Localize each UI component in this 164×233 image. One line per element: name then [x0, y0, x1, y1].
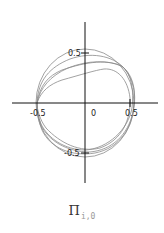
x-tick-label-0: 0 [91, 109, 96, 118]
y-tick-label-neg0.5: -0.5 [64, 149, 80, 158]
curve-3 [37, 62, 134, 152]
axes [12, 22, 158, 183]
caption-symbol: Π [69, 203, 80, 218]
chart-caption: Πi,0 [0, 200, 164, 219]
x-tick-label-0.5: 0.5 [125, 109, 138, 118]
x-tick-label-neg0.5: -0.5 [30, 109, 46, 118]
y-tick-label-0.5: 0.5 [68, 49, 81, 58]
chart-plot: -0.5 0 0.5 0.5 -0.5 [0, 0, 164, 200]
caption-subscript: i,0 [81, 212, 95, 221]
